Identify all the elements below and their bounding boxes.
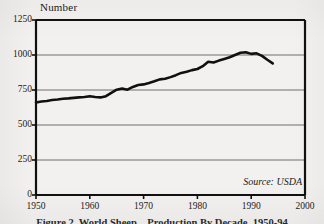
x-tick-label-1980: 1980: [188, 201, 207, 211]
x-axis-tick-labels: 195019601970198019902000: [0, 0, 324, 224]
x-tick-label-2000: 2000: [296, 201, 315, 211]
source-annotation: Source: USDA: [243, 176, 302, 187]
x-tick-label-1950: 1950: [27, 201, 46, 211]
x-tick-label-1960: 1960: [80, 201, 99, 211]
figure-container: Number 025050075010001250 19501960197019…: [0, 0, 324, 224]
figure-caption: Figure 2. World Sheep... Production By D…: [0, 217, 324, 224]
x-tick-label-1970: 1970: [134, 201, 153, 211]
x-tick-label-1990: 1990: [242, 201, 261, 211]
